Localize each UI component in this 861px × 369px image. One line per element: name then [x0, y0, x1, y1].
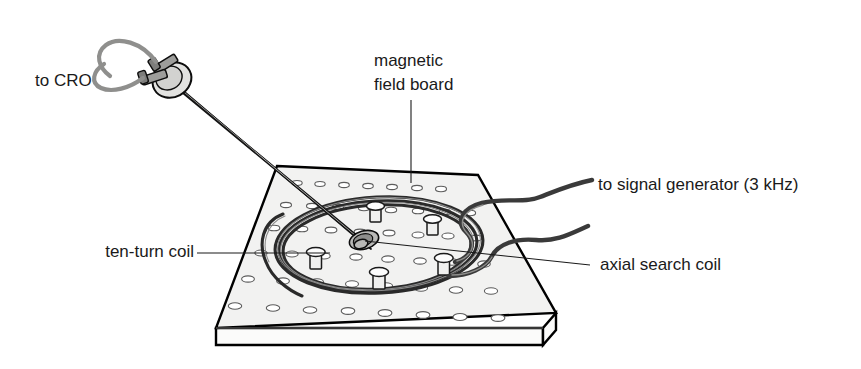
- cro-wire-lower: [94, 64, 143, 90]
- board-edge-right: [543, 313, 556, 345]
- label-ten-turn-coil: ten-turn coil: [105, 242, 194, 261]
- diagram-canvas: to CRO magnetic field board to signal ge…: [0, 0, 861, 369]
- label-to-signal-generator: to signal generator (3 kHz): [598, 175, 798, 194]
- board-top-surface: [216, 166, 556, 328]
- board-edge-thickness: [216, 328, 543, 345]
- peg-bottom: [369, 268, 388, 290]
- label-to-cro: to CRO: [35, 71, 92, 90]
- label-axial-search-coil: axial search coil: [600, 255, 721, 274]
- label-magnetic-field-board-line2: field board: [374, 75, 453, 94]
- cro-wire-upper: [99, 41, 156, 76]
- label-magnetic-field-board-line1: magnetic: [374, 51, 443, 70]
- magnetic-field-board-diagram: to CRO magnetic field board to signal ge…: [0, 0, 861, 369]
